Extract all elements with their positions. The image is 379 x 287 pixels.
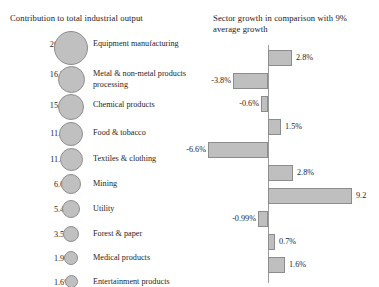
bubble-category-label: Textiles & clothing	[93, 154, 205, 165]
bar-rect	[208, 142, 268, 158]
bar-rect	[268, 257, 285, 273]
bubble-circle	[61, 174, 81, 194]
bubble-category-label: Medical products	[93, 253, 205, 264]
bar-row: 1.6%	[200, 257, 379, 280]
infographic-canvas: Contribution to total industrial output …	[0, 0, 379, 287]
bar-value-label: -0.99%	[232, 213, 256, 224]
bubble-circle	[63, 226, 79, 242]
bubble-category-label: Equipment manufacturing	[93, 39, 205, 50]
bubble-chart: 26.1%Equipment manufacturing16.5%Metal &…	[0, 28, 205, 283]
bar-row: 2.8%	[200, 165, 379, 188]
bar-rect	[261, 96, 268, 112]
bubble-category-label: Metal & non-metal products processing	[93, 69, 205, 90]
bubble-circle	[54, 31, 88, 65]
bar-row: -0.6%	[200, 96, 379, 119]
bubble-circle	[62, 200, 80, 218]
growth-bar-chart: 2.8%-3.8%-0.6%1.5%-6.6%2.8%9.2-0.99%0.7%…	[200, 40, 379, 287]
bar-rect	[268, 165, 293, 181]
bar-value-label: 2.8%	[297, 167, 314, 178]
bubble-circle	[64, 251, 78, 265]
bar-value-label: -6.6%	[186, 144, 206, 155]
bar-value-label: 1.6%	[289, 259, 306, 270]
bubble-circle	[65, 275, 78, 287]
bar-row: 9.2	[200, 188, 379, 211]
bubble-category-label: Chemical products	[93, 100, 205, 111]
bar-value-label: -3.8%	[211, 75, 231, 86]
bubble-circle	[60, 148, 83, 171]
left-panel-title: Contribution to total industrial output	[10, 13, 210, 24]
bar-value-label: 0.7%	[279, 236, 296, 247]
bar-rect	[268, 119, 281, 135]
bubble-category-label: Utility	[93, 204, 205, 215]
bar-row: 0.7%	[200, 234, 379, 257]
bar-rect	[268, 50, 292, 66]
bar-rect	[258, 211, 268, 227]
bar-row: 2.8%	[200, 50, 379, 73]
bar-value-label: -0.6%	[239, 98, 259, 109]
bar-rect	[268, 234, 275, 250]
bubble-circle	[59, 122, 83, 146]
bubble-circle	[58, 94, 84, 120]
bubble-category-label: Entertainment products	[93, 277, 205, 287]
bubble-category-label: Food & tobacco	[93, 128, 205, 139]
bubble-circle	[58, 66, 85, 93]
bubble-category-label: Forest & paper	[93, 229, 205, 240]
bar-rect	[268, 188, 352, 204]
bar-row: 1.5%	[200, 119, 379, 142]
right-panel-title: Sector growth in comparison with 9% aver…	[213, 13, 373, 35]
bubble-category-label: Mining	[93, 179, 205, 190]
bar-value-label: 2.8%	[296, 52, 313, 63]
bar-rect	[233, 73, 268, 89]
bar-value-label: 9.2	[356, 190, 366, 201]
bar-row: -0.99%	[200, 211, 379, 234]
bar-value-label: 1.5%	[285, 121, 302, 132]
bar-row: -6.6%	[200, 142, 379, 165]
bar-row: -3.8%	[200, 73, 379, 96]
